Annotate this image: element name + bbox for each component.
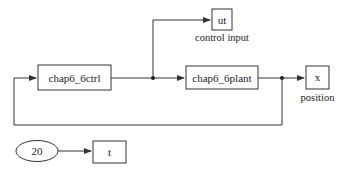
junction-dot-ctrl-output xyxy=(151,76,155,80)
ut-caption: control input xyxy=(195,32,249,43)
junction-dot-plant-output xyxy=(280,76,284,80)
ut-workspace-block[interactable]: ut xyxy=(212,9,232,30)
controller-label: chap6_6ctrl xyxy=(49,72,101,84)
clock-block[interactable]: 20 xyxy=(16,141,58,162)
plant-block[interactable]: chap6_6plant xyxy=(186,66,258,89)
controller-block[interactable]: chap6_6ctrl xyxy=(38,65,111,90)
t-workspace-block[interactable]: t xyxy=(93,141,126,163)
clock-label: 20 xyxy=(32,145,44,157)
x-caption: position xyxy=(301,92,336,103)
plant-label: chap6_6plant xyxy=(192,72,251,84)
x-label: x xyxy=(315,71,321,83)
x-workspace-block[interactable]: x xyxy=(306,66,329,89)
ut-label: ut xyxy=(218,14,227,26)
block-diagram-canvas: chap6_6ctrl chap6_6plant ut control inpu… xyxy=(0,0,342,176)
t-label: t xyxy=(108,146,111,158)
